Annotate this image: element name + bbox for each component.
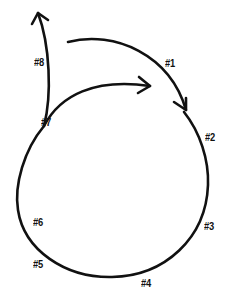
branch-up-path: [38, 13, 49, 126]
label-step-7: #7: [41, 117, 51, 128]
label-step-3: #3: [204, 221, 214, 232]
inner-arc-path: [44, 84, 150, 126]
cycle-diagram: [0, 0, 228, 298]
label-step-4: #4: [141, 278, 151, 289]
cycle-loop-path: [17, 112, 208, 277]
label-step-8: #8: [34, 57, 44, 68]
outer-arc-path: [68, 39, 186, 110]
label-step-2: #2: [205, 132, 215, 143]
label-step-1: #1: [165, 58, 175, 69]
label-step-6: #6: [33, 217, 43, 228]
label-step-5: #5: [33, 259, 43, 270]
